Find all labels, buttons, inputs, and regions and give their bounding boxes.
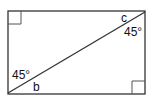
right-angle-marker-bottom-right <box>132 81 145 94</box>
angle-label-b: b <box>33 80 40 94</box>
angle-value-bottom-left: 45° <box>12 68 30 82</box>
right-angle-marker-top-left <box>8 11 21 24</box>
rectangle-diagonal-diagram: c 45° 45° b <box>0 0 158 103</box>
angle-label-c: c <box>121 11 127 25</box>
angle-value-top-right: 45° <box>124 25 142 39</box>
